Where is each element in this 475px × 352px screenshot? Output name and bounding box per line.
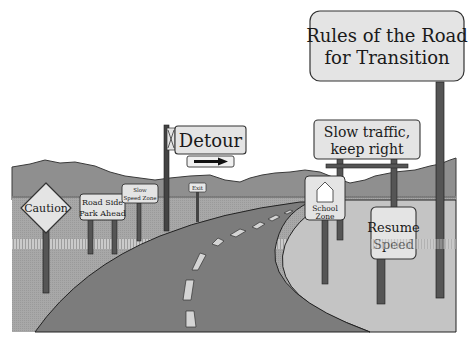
title-sign: Rules of the Road for Transition xyxy=(306,11,468,81)
road-side-post-right xyxy=(112,219,117,254)
detour-sign: Detour xyxy=(175,126,246,154)
detour-bracket xyxy=(167,128,175,150)
detour-arrow-sign xyxy=(187,156,234,167)
svg-text:for Transition: for Transition xyxy=(324,47,450,68)
slow-traffic-crossbar xyxy=(326,164,408,168)
exit-sign: Exit xyxy=(189,183,206,192)
svg-text:Caution: Caution xyxy=(24,202,68,215)
road-side-post-left xyxy=(88,219,93,254)
svg-text:Slow: Slow xyxy=(133,187,147,193)
svg-text:Slow traffic,: Slow traffic, xyxy=(324,124,410,140)
caution-post xyxy=(43,228,49,293)
svg-text:Road Side: Road Side xyxy=(82,198,123,207)
exit-post xyxy=(196,192,199,222)
slow-speed-zone-sign: Slow Speed Zone xyxy=(122,184,158,203)
resume-speed-sign: Resume Speed xyxy=(367,207,420,259)
svg-text:Zone: Zone xyxy=(316,212,336,221)
svg-text:keep right: keep right xyxy=(330,141,404,157)
title-sign-post xyxy=(436,82,444,298)
svg-text:Exit: Exit xyxy=(192,185,204,191)
svg-text:Resume: Resume xyxy=(367,220,420,235)
svg-text:Speed Zone: Speed Zone xyxy=(124,195,157,202)
slow-traffic-sign: Slow traffic, keep right xyxy=(314,120,420,159)
slow-speed-zone-post xyxy=(137,203,141,241)
road-signs-illustration: Rules of the Road for Transition Caution… xyxy=(0,0,475,352)
svg-text:Rules of the Road: Rules of the Road xyxy=(306,25,468,46)
school-zone-sign: School Zone xyxy=(305,176,345,221)
svg-text:Detour: Detour xyxy=(179,130,243,151)
fence-overlay xyxy=(371,239,456,249)
road-side-park-sign: Road Side Park Ahead xyxy=(79,194,126,220)
resume-speed-post xyxy=(377,258,385,304)
school-zone-post xyxy=(322,219,328,284)
svg-text:Park Ahead: Park Ahead xyxy=(79,209,126,218)
